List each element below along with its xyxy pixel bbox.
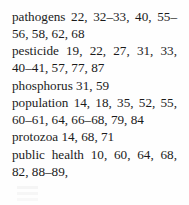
index-page: pathogens 22, 32–33, 40, 55–56, 58, 62, … <box>0 0 189 205</box>
index-entry: population 14, 18, 35, 52, 55, 60–61, 64… <box>12 95 177 129</box>
index-entry: phosphorus 31, 59 <box>12 78 177 95</box>
index-entry: protozoa 14, 68, 71 <box>12 129 177 146</box>
scan-artifact <box>17 186 38 204</box>
index-entry-list: pathogens 22, 32–33, 40, 55–56, 58, 62, … <box>12 9 177 181</box>
index-entry: public health 10, 60, 64, 68, 82, 88–89, <box>12 147 177 181</box>
index-entry: pathogens 22, 32–33, 40, 55–56, 58, 62, … <box>12 9 177 43</box>
index-entry: pesticide 19, 22, 27, 31, 33, 40–41, 57,… <box>12 43 177 77</box>
